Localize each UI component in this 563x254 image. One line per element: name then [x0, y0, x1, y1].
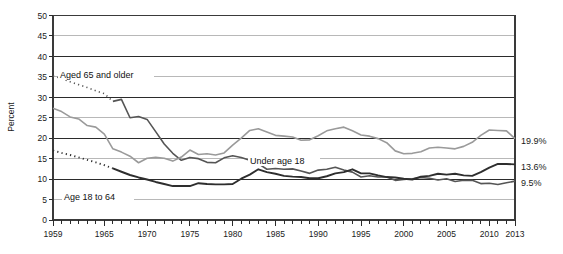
y-axis-title: Percent — [6, 102, 16, 132]
annotation-18to64: Age 18 to 64 — [62, 190, 134, 202]
x-tick-label-1985: 1985 — [266, 229, 285, 239]
x-tick-label-1970: 1970 — [138, 229, 157, 239]
y-tick-label-35: 35 — [38, 72, 48, 82]
data-series-group — [53, 76, 515, 186]
x-tick-label-2013: 2013 — [506, 229, 525, 239]
annotation-under18: Under age 18 — [248, 154, 320, 166]
endpoint-label-18to64: 13.6% — [521, 162, 547, 172]
x-tick-label-2010: 2010 — [480, 229, 499, 239]
y-tick-label-30: 30 — [38, 93, 48, 103]
series-line-2-dashed — [53, 150, 113, 168]
x-tick-label-2000: 2000 — [394, 229, 413, 239]
x-tick-label-1995: 1995 — [352, 229, 371, 239]
y-tick-label-45: 45 — [38, 31, 48, 41]
y-tick-label-15: 15 — [38, 154, 48, 164]
x-tick-label-2005: 2005 — [437, 229, 456, 239]
annotation-aged65-text: Aged 65 and older — [60, 70, 134, 80]
series-line-0 — [113, 99, 515, 184]
x-tick-label-1959: 1959 — [44, 229, 63, 239]
annotation-under18-text: Under age 18 — [250, 156, 305, 166]
annotation-18to64-text: Age 18 to 64 — [64, 192, 115, 202]
x-tick-label-1980: 1980 — [223, 229, 242, 239]
y-tick-label-20: 20 — [38, 133, 48, 143]
x-tick-label-1990: 1990 — [309, 229, 328, 239]
x-tick-label-1975: 1975 — [180, 229, 199, 239]
x-axis-tick-labels: 1959196519701975198019851990199520002005… — [44, 229, 525, 239]
series-line-2 — [113, 164, 515, 186]
y-tick-label-25: 25 — [38, 113, 48, 123]
y-tick-label-50: 50 — [38, 11, 48, 21]
annotation-aged65: Aged 65 and older — [58, 68, 154, 80]
y-tick-label-40: 40 — [38, 52, 48, 62]
y-tick-label-0: 0 — [42, 215, 47, 225]
y-axis-tick-labels: 05101520253035404550 — [38, 11, 53, 226]
endpoint-label-under18: 19.9% — [521, 136, 547, 146]
poverty-rate-chart: 05101520253035404550 1959196519701975198… — [0, 0, 563, 254]
y-tick-label-5: 5 — [42, 195, 47, 205]
y-tick-label-10: 10 — [38, 174, 48, 184]
x-tick-label-1965: 1965 — [95, 229, 114, 239]
x-axis-tick-marks — [53, 220, 515, 226]
endpoint-label-aged65: 9.5% — [521, 178, 542, 188]
chart-svg: 05101520253035404550 1959196519701975198… — [0, 0, 563, 254]
